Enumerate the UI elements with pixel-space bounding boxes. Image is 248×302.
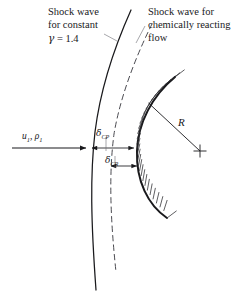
delta-cr-label: δCR [105,155,118,168]
blunt-body-surface [137,77,175,218]
caption-right-line2: chemically reacting [148,19,231,32]
caption-left-line2: for constant [48,19,99,32]
freestream-conditions-label: u1, ρ1 [22,131,43,144]
leader-line-constant-gamma [104,34,117,41]
caption-shock-wave-reacting-flow: Shock wave for chemically reacting flow [148,6,231,44]
radius-line [149,103,201,151]
delta-cp-subscript: CP [101,134,109,140]
caption-right-line1: Shock wave for [148,6,231,19]
caption-left-line1: Shock wave [48,6,99,19]
blunt-body-shock-wave-diagram: Shock wave for constant γ = 1.4 Shock wa… [0,0,248,302]
delta-cp-label: δCP [96,128,109,141]
gamma-value: = 1.4 [57,33,79,44]
delta-cr-subscript: CR [110,161,118,167]
caption-shock-wave-constant-gamma: Shock wave for constant γ = 1.4 [48,6,99,45]
radius-label: R [178,116,185,129]
diagram-canvas [0,0,248,302]
freestream-density-subscript: 1 [39,136,42,143]
caption-right-line3: flow [148,32,231,45]
leader-line-reacting-flow [136,26,145,43]
gamma-symbol: γ [48,32,54,44]
shock-wave-constant-gamma-curve [92,10,131,290]
caption-gamma-value: γ = 1.4 [48,32,99,46]
